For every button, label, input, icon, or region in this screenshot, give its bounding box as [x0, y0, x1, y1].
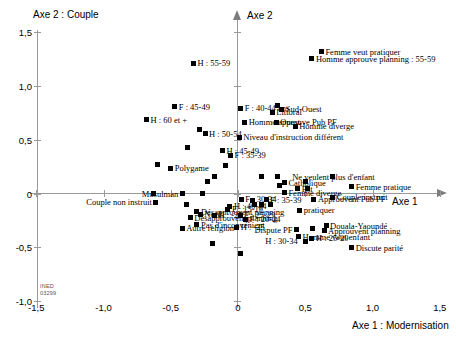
data-point-label: Couple non instruit [86, 198, 152, 207]
data-point-label: F : 45-49 [179, 102, 210, 111]
data-point-marker [172, 104, 177, 109]
y-axis-arrow-icon [233, 10, 241, 20]
y-tick-label: 1,5 [8, 27, 32, 38]
x-axis-arrow-icon [437, 189, 447, 197]
data-point-marker [242, 120, 247, 125]
data-point-marker [210, 241, 215, 246]
y-tick-mark-left [34, 194, 41, 195]
y-tick-label: 1,0 [8, 81, 32, 92]
data-point-label: H : 30-34 [265, 237, 298, 246]
data-point-marker [259, 174, 264, 179]
ined-watermark-line: INED [40, 283, 56, 290]
data-point-label: Polygame [175, 164, 209, 173]
x-tick-label: 0 [235, 302, 240, 313]
data-point-marker [220, 148, 225, 153]
data-point-label: Femme pratique [356, 182, 411, 191]
data-point-marker [223, 163, 228, 168]
y-axis-left-spine [37, 30, 38, 308]
data-point-label: Approuvent Pub PF [318, 195, 386, 204]
y-tick-mark [234, 140, 241, 141]
data-point-marker [275, 103, 280, 108]
data-point-marker [168, 166, 173, 171]
data-point-marker [293, 124, 298, 129]
data-point-marker [294, 227, 299, 232]
data-point-marker [197, 127, 202, 132]
scatter-plot-chart: Axe 2 : Couple Axe 2 Axe 1 Axe 1 : Moder… [0, 0, 456, 345]
data-point-label: Homme veut enfant [303, 232, 371, 241]
data-point-marker [311, 197, 316, 202]
data-point-marker [200, 191, 205, 196]
data-point-marker [180, 191, 185, 196]
data-point-label: F : 35-39 [235, 151, 266, 160]
data-point-marker [309, 56, 314, 61]
data-point-marker [155, 162, 160, 167]
x-tick-label: 0,5 [299, 302, 312, 313]
data-point-marker [153, 200, 158, 205]
data-point-label: Autre religion [186, 224, 234, 233]
data-point-marker [275, 174, 280, 179]
y-tick-mark-left [34, 32, 41, 33]
data-point-marker [237, 135, 242, 140]
y-tick-mark-left [34, 140, 41, 141]
data-point-label: pratiquer [304, 206, 335, 215]
data-point-marker [205, 179, 210, 184]
data-point-marker [238, 251, 243, 256]
data-point-marker [349, 184, 354, 189]
y-tick-mark-left [34, 301, 41, 302]
data-point-label: Littoral [276, 108, 302, 117]
x-tick-label: -1,0 [95, 302, 111, 313]
x-axis-title: Axe 1 : Modernisation [352, 320, 449, 331]
y-axis-title: Axe 2 : Couple [33, 9, 99, 20]
data-point-marker [212, 174, 217, 179]
data-point-marker [274, 120, 279, 125]
ined-watermark-line: 03299 [40, 290, 56, 297]
y-tick-mark [234, 194, 241, 195]
data-point-marker [180, 226, 185, 231]
data-point-label: Niveau d'instruction différent [243, 133, 343, 142]
y-tick-mark-left [34, 247, 41, 248]
y-tick-label: -1,0 [8, 296, 32, 307]
x-tick-label: -0,5 [163, 302, 179, 313]
data-point-marker [151, 191, 156, 196]
data-point-marker [296, 234, 301, 239]
data-point-label: F : 35-39 [270, 195, 301, 204]
data-point-marker [188, 215, 193, 220]
y-tick-mark [234, 86, 241, 87]
y-axis-name-label: Axe 2 [247, 10, 273, 21]
data-point-label: H : 60 et + [151, 115, 187, 124]
x-tick-mark [440, 190, 441, 197]
y-tick-mark [234, 247, 241, 248]
x-tick-label: 1,5 [433, 302, 446, 313]
data-point-label: Ne veulent plus d'enfant [292, 172, 375, 181]
data-point-label: Homme diverge [299, 122, 354, 131]
data-point-marker [297, 208, 302, 213]
data-point-marker [144, 117, 149, 122]
y-tick-label: 0,5 [8, 134, 32, 145]
data-point-label: Homme approuve planning : 55-59 [316, 54, 435, 63]
data-point-marker [234, 225, 239, 230]
data-point-label: Discute parité [356, 243, 403, 252]
data-point-marker [282, 180, 287, 185]
data-point-marker [185, 145, 190, 150]
data-point-marker [203, 131, 208, 136]
x-tick-label: 1,0 [366, 302, 379, 313]
x-axis-name-label: Axe 1 [392, 196, 418, 207]
y-tick-mark [234, 301, 241, 302]
y-tick-label: -0,5 [8, 242, 32, 253]
data-point-marker [238, 213, 243, 218]
y-tick-mark [234, 32, 241, 33]
y-tick-label: 0 [8, 188, 32, 199]
data-point-marker [238, 106, 243, 111]
data-point-marker [184, 202, 189, 207]
data-point-marker [349, 245, 354, 250]
y-axis-line [237, 18, 238, 308]
data-point-marker [191, 61, 196, 66]
data-point-marker [228, 153, 233, 158]
ined-watermark: INED03299 [40, 283, 56, 296]
data-point-label: Dispute PF [254, 225, 292, 234]
data-point-label: H : 55-59 [198, 59, 231, 68]
data-point-marker [270, 110, 275, 115]
y-tick-mark-left [34, 86, 41, 87]
